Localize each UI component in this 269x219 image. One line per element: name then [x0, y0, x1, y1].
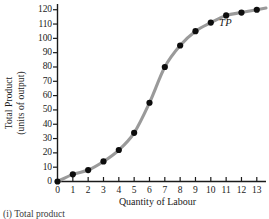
x-tick-label: 13 [249, 185, 265, 195]
data-point-markers [54, 7, 260, 185]
series-label-tp: TP [219, 17, 232, 28]
data-point-marker [131, 130, 137, 136]
x-tick-label: 10 [203, 185, 219, 195]
y-tick-label: 100 [26, 33, 52, 43]
data-point-marker [70, 171, 76, 177]
y-tick-label: 70 [26, 76, 52, 86]
data-point-marker [177, 42, 183, 48]
x-tick-label: 0 [50, 185, 66, 195]
x-tick-label: 4 [111, 185, 127, 195]
x-tick-label: 5 [126, 185, 142, 195]
figure-caption: (i) Total product [3, 209, 65, 219]
total-product-figure: Total Product (units of output) 01020304… [0, 0, 269, 219]
y-tick-label: 0 [26, 176, 52, 186]
axes [58, 4, 267, 182]
x-tick-label: 6 [141, 185, 157, 195]
x-tick-label: 7 [157, 185, 173, 195]
data-point-marker [100, 158, 106, 164]
data-point-marker [116, 147, 122, 153]
y-tick-label: 80 [26, 61, 52, 71]
data-point-marker [238, 9, 244, 15]
data-point-marker [162, 64, 168, 70]
y-tick-label: 30 [26, 133, 52, 143]
x-tick-label: 11 [218, 185, 234, 195]
y-tick-label: 120 [26, 4, 52, 14]
y-tick-label: 50 [26, 104, 52, 114]
data-point-marker [192, 28, 198, 34]
x-tick-label: 8 [172, 185, 188, 195]
y-tick-label: 20 [26, 147, 52, 157]
total-product-curve [58, 8, 267, 181]
x-tick-label: 2 [80, 185, 96, 195]
data-point-marker [254, 7, 260, 13]
data-point-marker [146, 100, 152, 106]
y-tick-label: 10 [26, 162, 52, 172]
data-point-marker [85, 167, 91, 173]
y-tick-label: 90 [26, 47, 52, 57]
x-tick-label: 3 [95, 185, 111, 195]
x-tick-label: 12 [233, 185, 249, 195]
x-tick-label: 1 [65, 185, 81, 195]
y-tick-label: 110 [26, 19, 52, 29]
y-tick-label: 60 [26, 90, 52, 100]
data-point-marker [208, 20, 214, 26]
x-axis-title: Quantity of Labour [55, 196, 260, 207]
y-tick-label: 40 [26, 119, 52, 129]
x-tick-label: 9 [187, 185, 203, 195]
